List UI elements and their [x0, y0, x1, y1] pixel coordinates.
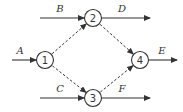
node-number: 4: [137, 55, 143, 66]
activity-arrow-d: D: [102, 3, 150, 18]
dummy-arrow-1-2: [52, 24, 86, 54]
event-node-3: 3: [85, 90, 102, 107]
event-node-2: 2: [85, 10, 102, 27]
event-node-4: 4: [132, 52, 149, 69]
activity-label: E: [157, 45, 166, 56]
network-diagram: ABCDEF 1234: [0, 0, 183, 112]
activity-arrow-e: E: [149, 45, 177, 60]
activity-label: F: [118, 83, 127, 94]
event-nodes: 1234: [37, 10, 149, 107]
activity-arrow-a: A: [12, 45, 36, 60]
activity-label: D: [117, 3, 126, 14]
dummy-arrow-2-4: [100, 24, 133, 54]
node-number: 1: [42, 55, 48, 66]
activity-label: C: [56, 83, 64, 94]
event-node-1: 1: [37, 52, 54, 69]
dummy-arrow-3-4: [100, 66, 133, 92]
node-number: 3: [90, 93, 96, 104]
activity-arrow-b: B: [40, 3, 84, 18]
activity-label: A: [15, 45, 23, 56]
activity-label: B: [55, 3, 63, 14]
node-number: 2: [90, 13, 96, 24]
